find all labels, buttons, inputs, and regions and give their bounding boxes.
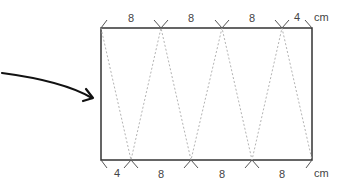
- folding-diagram: 8 8 8 4 cm 4 8 8 8 cm: [0, 0, 343, 186]
- bottom-label-4: 8: [279, 168, 285, 180]
- bottom-label-3: 8: [219, 168, 225, 180]
- pointer-arrow-icon: [2, 73, 93, 101]
- top-label-1: 8: [128, 12, 134, 24]
- top-label-2: 8: [188, 12, 194, 24]
- bottom-tick-marks: [101, 160, 312, 168]
- bottom-label-2: 8: [158, 168, 164, 180]
- zigzag-fold-line: [101, 28, 312, 160]
- top-label-4: 4: [294, 11, 300, 23]
- top-label-3: 8: [249, 12, 255, 24]
- bottom-unit: cm: [314, 167, 329, 179]
- bottom-label-1: 4: [114, 167, 120, 179]
- top-unit: cm: [314, 11, 329, 23]
